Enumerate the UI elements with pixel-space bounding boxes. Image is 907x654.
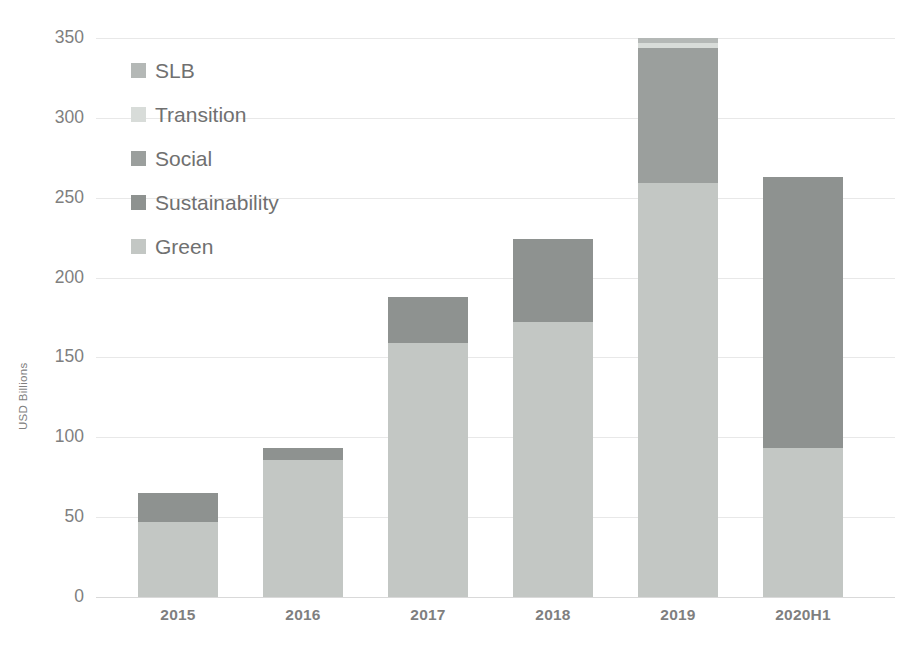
y-tick-0: 0 — [74, 588, 84, 606]
legend-swatch-slb-icon — [131, 63, 146, 78]
legend-swatch-sustainability-icon — [131, 195, 146, 210]
legend-label-green: Green — [155, 236, 213, 257]
bar-stack — [638, 38, 718, 597]
bar-segment-green[interactable] — [388, 343, 468, 597]
legend-item-slb[interactable]: SLB — [131, 48, 391, 92]
bar-segment-green[interactable] — [513, 322, 593, 597]
legend-label-transition: Transition — [155, 104, 246, 125]
legend-label-sustainability: Sustainability — [155, 192, 279, 213]
bar-stack — [513, 239, 593, 597]
y-tick-100: 100 — [55, 429, 84, 447]
legend-item-social[interactable]: Social — [131, 136, 391, 180]
bar-group-2017[interactable] — [388, 38, 468, 597]
bar-stack — [263, 448, 343, 597]
x-tick-2017: 2017 — [388, 606, 468, 624]
bar-stack — [138, 493, 218, 597]
bar-group-2019[interactable] — [638, 38, 718, 597]
gridline-0 — [96, 597, 895, 598]
legend-swatch-transition-icon — [131, 107, 146, 122]
bar-segment-sustainability[interactable] — [388, 297, 468, 343]
bar-segment-sustainability[interactable] — [763, 177, 843, 449]
y-tick-200: 200 — [55, 269, 84, 287]
y-axis: 350 300 250 200 150 100 50 0 — [0, 0, 96, 654]
legend-label-social: Social — [155, 148, 212, 169]
bar-segment-green[interactable] — [263, 460, 343, 597]
y-tick-50: 50 — [65, 508, 84, 526]
x-tick-2015: 2015 — [138, 606, 218, 624]
legend-item-green[interactable]: Green — [131, 224, 391, 268]
stacked-bar-chart: 350 300 250 200 150 100 50 0 USD Billion… — [0, 0, 907, 654]
bar-segment-green[interactable] — [638, 183, 718, 597]
x-tick-2016: 2016 — [263, 606, 343, 624]
bar-segment-social[interactable] — [638, 48, 718, 184]
y-tick-350: 350 — [55, 29, 84, 47]
y-tick-150: 150 — [55, 349, 84, 367]
bar-group-2020h1[interactable] — [763, 38, 843, 597]
x-tick-2019: 2019 — [638, 606, 718, 624]
legend-label-slb: SLB — [155, 60, 195, 81]
bar-segment-sustainability[interactable] — [513, 239, 593, 322]
y-axis-title: USD Billions — [17, 362, 29, 430]
legend-item-sustainability[interactable]: Sustainability — [131, 180, 391, 224]
x-tick-2018: 2018 — [513, 606, 593, 624]
x-axis: 2015 2016 2017 2018 2019 2020H1 — [96, 606, 895, 636]
legend-swatch-green-icon — [131, 239, 146, 254]
bar-stack — [763, 177, 843, 597]
legend: SLB Transition Social Sustainability Gre… — [131, 48, 391, 268]
legend-item-transition[interactable]: Transition — [131, 92, 391, 136]
y-tick-300: 300 — [55, 109, 84, 127]
x-tick-2020h1: 2020H1 — [763, 606, 843, 624]
bar-segment-sustainability[interactable] — [263, 448, 343, 459]
y-tick-250: 250 — [55, 189, 84, 207]
bar-group-2018[interactable] — [513, 38, 593, 597]
bar-segment-green[interactable] — [138, 522, 218, 597]
legend-swatch-social-icon — [131, 151, 146, 166]
bar-segment-green[interactable] — [763, 448, 843, 597]
bar-segment-sustainability[interactable] — [138, 493, 218, 522]
bar-stack — [388, 297, 468, 597]
